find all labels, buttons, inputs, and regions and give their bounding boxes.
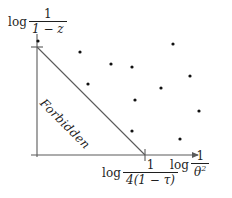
- scatter-point: [130, 129, 133, 132]
- scatter-point: [171, 42, 174, 45]
- scatter-point: [133, 98, 136, 101]
- forbidden-boundary-line: [37, 47, 145, 155]
- y-axis-label-fraction: 11 − z: [29, 8, 67, 35]
- scatter-point: [197, 109, 200, 112]
- x-axis-tick-label-operator: log: [102, 166, 121, 180]
- x-axis-label: log1θ2: [170, 150, 209, 178]
- figure-root: log11 − z log14(1 − τ) log1θ2 Forbidden: [0, 0, 232, 198]
- scatter-point: [109, 62, 112, 65]
- x-axis-label-fraction: 1θ2: [191, 150, 209, 178]
- scatter-point: [178, 137, 181, 140]
- scatter-point: [159, 86, 162, 89]
- scatter-point: [36, 39, 39, 42]
- y-axis-label: log11 − z: [8, 8, 67, 35]
- x-axis-label-exponent: 2: [201, 164, 206, 173]
- x-axis-label-operator: log: [170, 158, 189, 172]
- scatter-point: [188, 74, 191, 77]
- y-axis-label-denominator: 1 − z: [29, 23, 67, 35]
- scatter-point: [130, 65, 133, 68]
- y-axis-label-operator: log: [8, 15, 27, 29]
- y-axis-label-numerator: 1: [29, 8, 67, 20]
- scatter-point: [78, 50, 81, 53]
- x-axis-tick-label: log14(1 − τ): [102, 159, 178, 186]
- scatter-point: [86, 82, 89, 85]
- x-axis-label-numerator: 1: [191, 150, 209, 162]
- x-axis-label-denominator: θ2: [191, 165, 209, 178]
